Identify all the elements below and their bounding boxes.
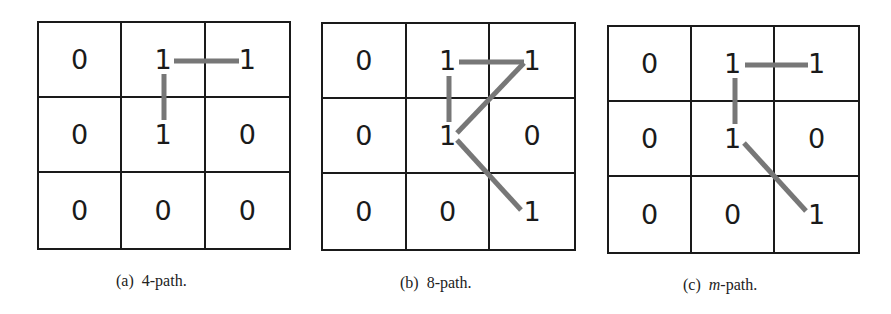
caption-m-path: (c) m-path. — [683, 276, 757, 294]
grid-4-path: 0 1 1 0 1 0 0 0 0 — [37, 21, 291, 250]
caption-italic: m — [709, 276, 721, 293]
pixel-cell: 0 — [692, 177, 775, 252]
caption-label: 4-path. — [142, 272, 187, 289]
pixel-cell: 0 — [609, 177, 692, 252]
pixel-cell: 0 — [39, 23, 122, 98]
pixel-cell: 0 — [323, 24, 407, 99]
pixel-cell: 0 — [323, 174, 407, 249]
caption-label: -path. — [720, 276, 757, 293]
pixel-cell: 1 — [692, 27, 775, 102]
pixel-cell: 1 — [490, 174, 574, 249]
pixel-cell: 1 — [206, 23, 289, 98]
pixel-cell: 0 — [122, 173, 205, 248]
pixel-cell: 1 — [775, 27, 858, 102]
caption-8-path: (b) 8-path. — [400, 274, 472, 292]
caption-label: 8-path. — [427, 274, 472, 291]
pixel-cell: 0 — [407, 174, 491, 249]
pixel-cell: 1 — [122, 23, 205, 98]
pixel-cell: 0 — [39, 173, 122, 248]
pixel-cell: 1 — [407, 99, 491, 174]
pixel-cell: 0 — [609, 27, 692, 102]
caption-prefix: (b) — [400, 274, 419, 291]
caption-prefix: (a) — [116, 272, 134, 289]
pixel-cell: 0 — [609, 102, 692, 177]
pixel-cell: 0 — [206, 173, 289, 248]
pixel-cell: 1 — [775, 177, 858, 252]
pixel-cell: 0 — [490, 99, 574, 174]
pixel-cell: 0 — [39, 98, 122, 173]
grid-m-path: 0 1 1 0 1 0 0 0 1 — [607, 25, 860, 254]
caption-4-path: (a) 4-path. — [116, 272, 187, 290]
pixel-cell: 0 — [206, 98, 289, 173]
pixel-cell: 0 — [323, 99, 407, 174]
grid-8-path: 0 1 1 0 1 0 0 0 1 — [321, 22, 576, 251]
pixel-cell: 1 — [407, 24, 491, 99]
pixel-cell: 0 — [775, 102, 858, 177]
pixel-cell: 1 — [122, 98, 205, 173]
pixel-cell: 1 — [490, 24, 574, 99]
caption-prefix: (c) — [683, 276, 701, 293]
pixel-cell: 1 — [692, 102, 775, 177]
